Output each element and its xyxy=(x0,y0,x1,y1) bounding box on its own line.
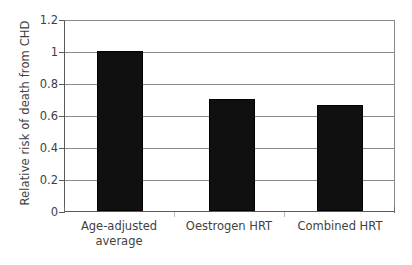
bars-layer xyxy=(65,21,394,211)
bar-age-adjusted-average xyxy=(97,51,143,211)
y-tick-label-0-4: 0.4 xyxy=(26,142,58,154)
y-tick-label-1: 1 xyxy=(26,46,58,58)
bar-chart: Relative risk of death from CHD 0 0.2 0.… xyxy=(0,0,412,265)
x-label-age-adjusted-average-line2: average xyxy=(64,234,174,249)
y-axis-tick-labels: 0 0.2 0.4 0.6 0.8 1 1.2 xyxy=(26,0,58,265)
y-tick-label-0-6: 0.6 xyxy=(26,110,58,122)
y-tick-label-0: 0 xyxy=(26,206,58,218)
bar-combined-hrt xyxy=(317,105,363,211)
y-tick-label-1-2: 1.2 xyxy=(26,14,58,26)
x-axis-category-labels: Age-adjusted average Oestrogen HRT Combi… xyxy=(64,219,395,263)
x-label-oestrogen-hrt: Oestrogen HRT xyxy=(174,219,284,234)
x-label-combined-hrt: Combined HRT xyxy=(285,219,395,234)
bar-oestrogen-hrt xyxy=(209,99,255,211)
y-tick-label-0-2: 0.2 xyxy=(26,174,58,186)
x-label-combined-hrt-line1: Combined HRT xyxy=(298,219,383,233)
x-label-oestrogen-hrt-line1: Oestrogen HRT xyxy=(186,219,272,233)
x-axis-tick-end xyxy=(394,207,395,213)
x-axis-tick-start xyxy=(64,207,65,213)
x-label-age-adjusted-average: Age-adjusted average xyxy=(64,219,174,249)
y-tick-label-0-8: 0.8 xyxy=(26,78,58,90)
x-axis-tick-cat-2 xyxy=(284,212,285,217)
x-label-age-adjusted-average-line1: Age-adjusted xyxy=(81,219,157,233)
x-axis-tick-cat-1 xyxy=(174,212,175,217)
plot-area xyxy=(64,20,395,212)
